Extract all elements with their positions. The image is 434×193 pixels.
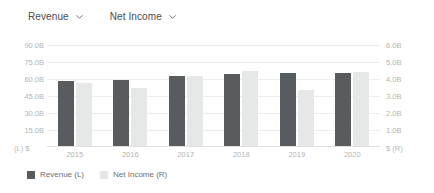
axis-baseline — [47, 146, 380, 147]
y-axis-right-tick: 2.0B — [386, 109, 401, 118]
y-axis-right-tick: 5.0B — [386, 58, 401, 67]
metric-selector-revenue[interactable]: Revenue — [26, 10, 86, 23]
bar-group[interactable] — [103, 45, 159, 147]
bar-net-income[interactable] — [131, 88, 147, 148]
bar-net-income[interactable] — [298, 90, 314, 147]
bar-revenue[interactable] — [169, 76, 185, 147]
x-axis-tick: 2020 — [325, 150, 381, 159]
bar-revenue[interactable] — [335, 73, 351, 147]
legend-swatch — [100, 171, 108, 179]
y-axis-left-tick: 75.0B — [24, 58, 44, 67]
y-axis-left: 90.0B75.0B60.0B45.0B30.0B15.0B — [4, 45, 44, 147]
y-axis-right-tick: 3.0B — [386, 92, 401, 101]
x-axis-tick: 2019 — [269, 150, 325, 159]
metric-selector-net-income[interactable]: Net Income — [108, 10, 179, 23]
bar-group[interactable] — [47, 45, 103, 147]
y-axis-right-tick: 1.0B — [386, 126, 401, 135]
y-axis-right-tick: 6.0B — [386, 41, 401, 50]
x-axis-tick: 2015 — [47, 150, 103, 159]
x-axis: 201520162017201820192020 — [47, 150, 380, 159]
y-axis-right: 6.0B5.0B4.0B3.0B2.0B1.0B — [386, 45, 426, 147]
legend-item[interactable]: Net Income (R) — [100, 170, 167, 179]
x-axis-tick: 2018 — [214, 150, 270, 159]
chart-toolbar: Revenue Net Income — [26, 10, 179, 23]
y-axis-left-tick: 30.0B — [24, 109, 44, 118]
x-axis-tick: 2016 — [103, 150, 159, 159]
chevron-down-icon — [168, 12, 177, 21]
y-axis-right-unit: $ (R) — [386, 144, 403, 153]
metric-selector-net-income-label: Net Income — [110, 11, 162, 22]
legend-label: Revenue (L) — [40, 170, 84, 179]
bar-revenue[interactable] — [224, 74, 240, 147]
y-axis-left-tick: 45.0B — [24, 92, 44, 101]
y-axis-right-tick: 4.0B — [386, 75, 401, 84]
bar-group[interactable] — [269, 45, 325, 147]
bar-net-income[interactable] — [187, 76, 203, 147]
bar-net-income[interactable] — [353, 72, 369, 147]
bar-groups — [47, 45, 380, 147]
bar-group[interactable] — [325, 45, 381, 147]
plot-area — [47, 45, 380, 147]
chevron-down-icon — [75, 12, 84, 21]
legend-label: Net Income (R) — [113, 170, 167, 179]
x-axis-tick: 2017 — [158, 150, 214, 159]
y-axis-left-unit: (L) $ — [14, 144, 29, 153]
legend-swatch — [27, 171, 35, 179]
legend-item[interactable]: Revenue (L) — [27, 170, 84, 179]
metric-selector-revenue-label: Revenue — [28, 11, 69, 22]
bar-revenue[interactable] — [58, 81, 74, 147]
y-axis-left-tick: 15.0B — [24, 126, 44, 135]
y-axis-left-tick: 60.0B — [24, 75, 44, 84]
bar-revenue[interactable] — [113, 80, 129, 147]
bar-group[interactable] — [214, 45, 270, 147]
chart-widget: Revenue Net Income 90.0B75.0B60.0B45.0B3… — [0, 0, 434, 193]
bar-net-income[interactable] — [76, 83, 92, 147]
bar-group[interactable] — [158, 45, 214, 147]
bar-net-income[interactable] — [242, 71, 258, 148]
chart-legend: Revenue (L)Net Income (R) — [27, 170, 167, 179]
y-axis-left-tick: 90.0B — [24, 41, 44, 50]
bar-revenue[interactable] — [280, 73, 296, 147]
